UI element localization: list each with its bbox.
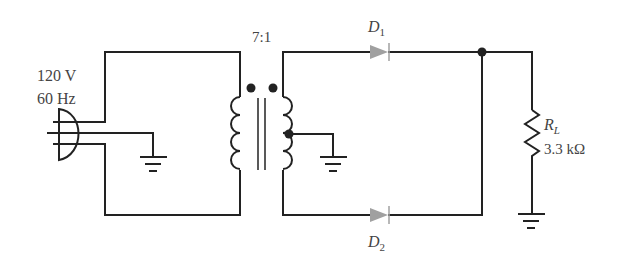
output-top-wire — [388, 52, 532, 110]
load-resistor-name: RL — [543, 116, 560, 136]
ground-icon — [518, 214, 545, 228]
primary-top-wire — [85, 52, 240, 122]
ground-icon — [320, 157, 347, 171]
diode-d1-label: D1 — [367, 18, 385, 38]
polarity-dot-secondary — [269, 84, 278, 93]
diode-d2-icon — [370, 206, 389, 224]
output-junction — [478, 48, 487, 57]
diode-d1-icon — [370, 43, 389, 61]
source-frequency-label: 60 Hz — [37, 90, 76, 107]
secondary-top-wire — [283, 52, 370, 97]
load-resistor-value: 3.3 kΩ — [544, 141, 585, 157]
output-bottom-wire — [388, 52, 482, 215]
center-tap-wire — [289, 134, 333, 157]
source-voltage-label: 120 V — [37, 67, 77, 84]
primary-coil-icon — [231, 97, 240, 169]
secondary-bottom-wire — [283, 170, 370, 215]
load-resistor-icon — [525, 110, 539, 213]
diode-d2-label: D2 — [367, 233, 385, 253]
circuit-diagram: 120 V 60 Hz 7:1 D1 D2 RL 3.3 kΩ — [0, 0, 625, 262]
polarity-dot-primary — [247, 84, 256, 93]
center-tap-junction — [285, 130, 294, 139]
primary-bottom-wire — [85, 144, 240, 215]
ac-plug-icon — [59, 109, 79, 160]
ground-icon — [140, 157, 167, 171]
turns-ratio-label: 7:1 — [252, 29, 271, 45]
